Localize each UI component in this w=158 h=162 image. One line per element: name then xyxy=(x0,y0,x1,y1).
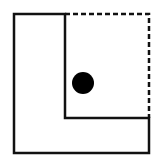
diagram-canvas xyxy=(0,0,158,162)
black-dot xyxy=(72,72,94,94)
diagram-svg xyxy=(0,0,158,162)
